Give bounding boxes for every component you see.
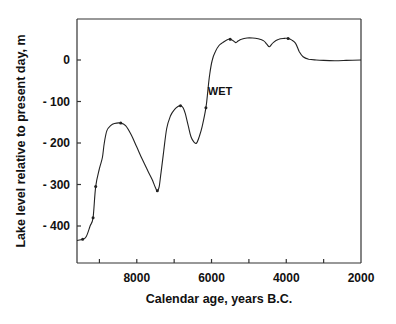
plot-frame — [77, 19, 361, 263]
data-point-marker — [229, 38, 232, 41]
lake-level-line — [77, 38, 361, 241]
x-tick-label: 6000 — [198, 271, 225, 285]
y-tick-label: - 200 — [43, 136, 71, 150]
x-tick-label: 8000 — [123, 271, 150, 285]
data-point-marker — [287, 37, 290, 40]
data-point-marker — [179, 104, 182, 107]
data-point-marker — [92, 216, 95, 219]
data-point-marker — [204, 106, 207, 109]
y-tick-label: 0 — [63, 53, 70, 67]
lake-level-chart: 0- 100- 200- 300- 400 8000600040002000 W… — [0, 0, 396, 324]
data-point-marker — [119, 122, 122, 125]
x-tick-label: 4000 — [273, 271, 300, 285]
data-point-marker — [81, 238, 84, 241]
y-tick-label: - 300 — [43, 178, 71, 192]
wet-annotation: WET — [208, 85, 233, 97]
y-tick-label: - 400 — [43, 219, 71, 233]
y-axis-title: Lake level relative to present day, m — [14, 34, 28, 247]
x-axis-title: Calendar age, years B.C. — [146, 292, 293, 306]
x-tick-label: 2000 — [348, 271, 375, 285]
data-point-marker — [156, 189, 159, 192]
y-tick-label: - 100 — [43, 95, 71, 109]
lake-level-series — [77, 37, 361, 241]
data-point-marker — [94, 185, 97, 188]
y-axis-ticks: 0- 100- 200- 300- 400 — [43, 53, 81, 233]
annotations: WET — [208, 85, 233, 97]
